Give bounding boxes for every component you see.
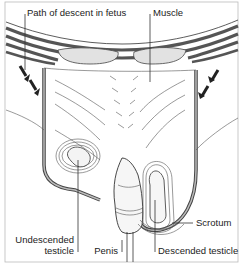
label-undescended-1: Undescended bbox=[15, 234, 74, 245]
label-muscle: Muscle bbox=[153, 7, 183, 18]
penis bbox=[114, 158, 143, 262]
label-path-of-descent: Path of descent in fetus bbox=[27, 7, 127, 18]
anatomy-diagram: Path of descent in fetus Muscle Scrotum … bbox=[0, 0, 245, 268]
label-penis: Penis bbox=[94, 245, 118, 256]
label-undescended-2: testicle bbox=[44, 245, 74, 256]
label-scrotum: Scrotum bbox=[196, 217, 231, 228]
label-descended-testicle: Descended testicle bbox=[158, 245, 238, 256]
striations bbox=[6, 76, 238, 160]
abdominal-wall bbox=[6, 20, 238, 64]
diagram-canvas: Path of descent in fetus Muscle Scrotum … bbox=[0, 0, 245, 268]
